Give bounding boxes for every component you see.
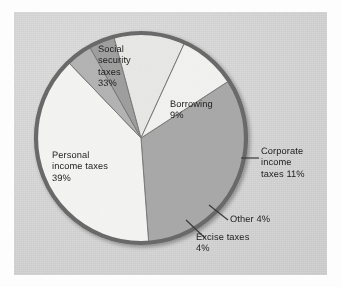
pie-chart (0, 0, 341, 287)
pie-label-personal-income-taxes: Personal income taxes 39% (52, 150, 108, 184)
pie-label-excise-taxes: Excise taxes 4% (196, 232, 249, 255)
pie-label-other: Other 4% (230, 214, 270, 225)
pie-label-borrowing: Borrowing 9% (170, 99, 213, 122)
pie-label-corporate-income-taxes: Corporate income taxes 11% (261, 146, 337, 180)
figure-canvas: Social security taxes 33% Borrowing 9% C… (0, 0, 341, 287)
paper-grain-overlay (14, 12, 327, 275)
pie-label-social-security-taxes: Social security taxes 33% (98, 44, 131, 90)
